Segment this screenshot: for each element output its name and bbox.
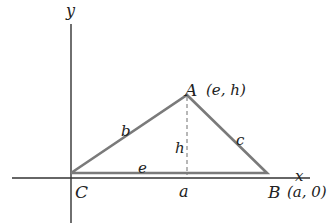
height-h-label: h xyxy=(175,139,185,157)
y-axis-label: y xyxy=(65,1,76,20)
vertex-a-label: A xyxy=(183,80,197,100)
segment-e-label: e xyxy=(138,159,147,177)
vertex-c-label: C xyxy=(75,182,88,202)
vertex-a-coords: (e, h) xyxy=(206,81,246,99)
triangle-diagram: y x A (e, h) C B (a, 0) b c h e a xyxy=(0,0,330,223)
side-b-label: b xyxy=(121,122,131,140)
vertex-b-label: B xyxy=(267,182,281,202)
vertex-b-coords: (a, 0) xyxy=(287,183,327,201)
side-c-label: c xyxy=(236,131,245,149)
point-a-label: a xyxy=(179,182,189,201)
